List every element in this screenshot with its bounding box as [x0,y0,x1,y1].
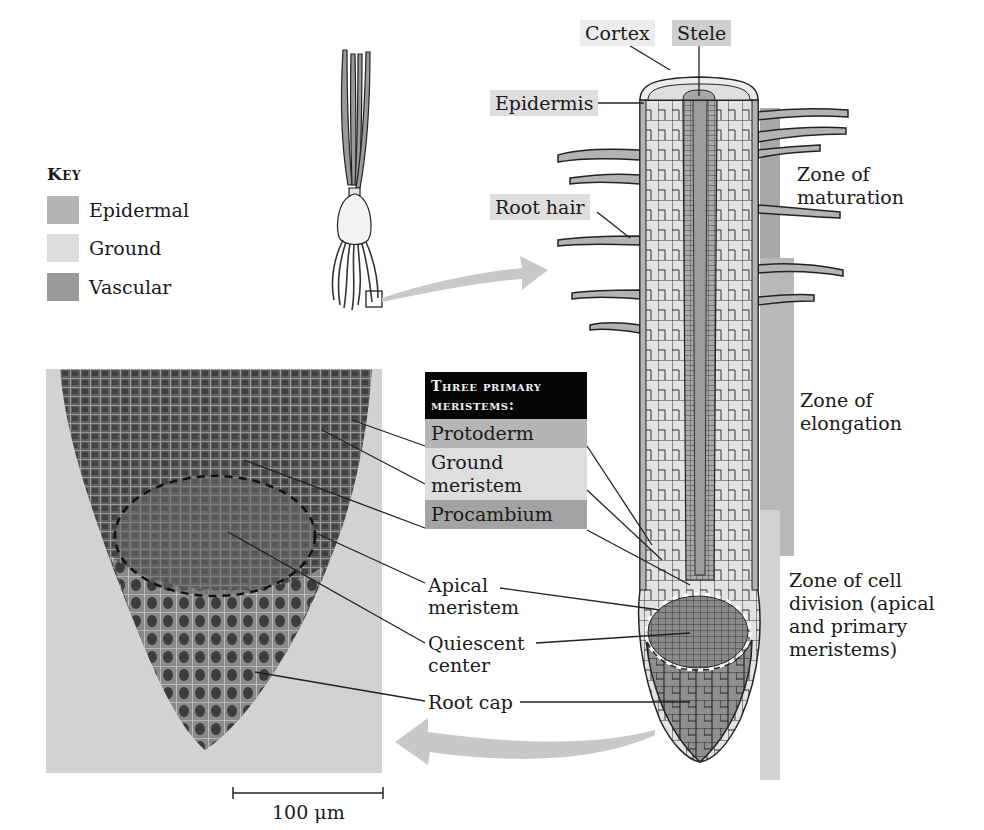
label-root-cap: Root cap [428,691,513,713]
scale-bar-label: 100 μm [272,801,345,823]
scale-bar-line [233,787,383,799]
meristem-ground: Ground meristem [425,448,587,500]
zone-maturation: Zone of maturation [797,163,904,209]
label-root-hair: Root hair [490,194,590,220]
magnify-box [366,291,382,307]
meristem-protoderm: Protoderm [425,419,587,448]
zoom-arrow-left [395,718,655,765]
label-quiescent-center: Quiescent center [428,632,525,676]
primary-meristems-box: Three primary meristems: Protoderm Groun… [425,372,587,529]
label-epidermis: Epidermis [490,90,598,116]
zone-cell-division: Zone of cell division (apical and primar… [789,569,935,661]
label-cortex: Cortex [580,20,655,46]
label-stele: Stele [672,20,731,46]
meristems-title: Three primary meristems: [425,372,587,419]
meristem-procambium: Procambium [425,500,587,529]
onion-plant [332,50,382,310]
label-apical-meristem: Apical meristem [428,574,519,618]
zone-bar-cell-division [760,510,780,780]
zoom-arrow-right [382,256,548,302]
zone-elongation: Zone of elongation [800,389,902,435]
